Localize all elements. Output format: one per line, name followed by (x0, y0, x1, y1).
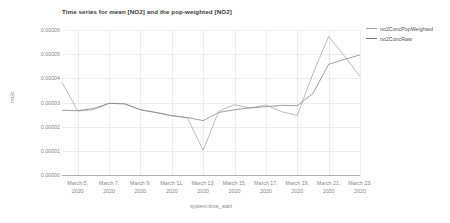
y-axis-title: no2c (9, 77, 15, 117)
y-axis-tick-label: 0.00002 (20, 124, 60, 130)
plot-area (62, 30, 360, 175)
y-axis-tick-label: 0.00005 (20, 51, 60, 57)
y-axis-tick-label: 0.00000 (20, 172, 60, 178)
chart-container: Time series for mean [NO2] and the pop-w… (0, 0, 450, 223)
x-axis-title: system:time_start (62, 203, 360, 209)
y-axis-tick-label: 0.00001 (20, 148, 60, 154)
series-line-no2ConcRaw (62, 55, 360, 121)
y-axis-tick-label: 0.00006 (20, 27, 60, 33)
legend-swatch-icon (366, 28, 377, 29)
legend-swatch-icon (366, 38, 377, 39)
gridline-vertical (360, 30, 361, 175)
x-axis-tick-label: March 23,2020 (340, 180, 380, 195)
x-axis-line (62, 175, 360, 176)
legend-label: no2ConcRaw (380, 36, 412, 42)
chart-title: Time series for mean [NO2] and the pop-w… (62, 8, 232, 15)
chart-legend: no2ConcPopWeightedno2ConcRaw (366, 24, 450, 44)
legend-item[interactable]: no2ConcPopWeighted (366, 24, 450, 33)
x-axis-tick-labels: March 5,2020March 7,2020March 9,2020Marc… (62, 180, 360, 200)
y-axis-tick-label: 0.00004 (20, 75, 60, 81)
series-line-no2ConcPopWeighted (62, 37, 360, 151)
legend-item[interactable]: no2ConcRaw (366, 34, 450, 43)
series-lines (62, 30, 360, 175)
y-axis-tick-label: 0.00003 (20, 100, 60, 106)
legend-label: no2ConcPopWeighted (380, 26, 433, 32)
y-axis-tick-labels: 0.000000.000010.000020.000030.000040.000… (16, 30, 60, 175)
